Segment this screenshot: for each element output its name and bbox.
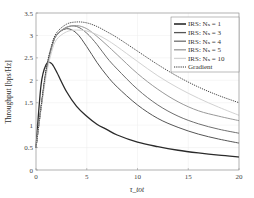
y-tick-label: 0.5 <box>24 144 33 152</box>
x-axis-label: τ_tot <box>130 185 145 194</box>
y-tick-label: 1.5 <box>24 99 33 107</box>
x-tick-label: 15 <box>185 173 193 181</box>
y-tick-label: 3 <box>30 32 34 40</box>
legend-label: IRS: Nₛ = 1 <box>188 20 221 28</box>
y-tick-label: 3.5 <box>24 10 33 18</box>
x-tick-label: 10 <box>134 173 142 181</box>
y-axis-label: Throughput [bps/Hz] <box>4 60 13 124</box>
y-tick-label: 2.5 <box>24 54 33 62</box>
legend-label: IRS: Nₛ = 10 <box>188 55 225 63</box>
x-tick-label: 0 <box>34 173 38 181</box>
legend-label: IRS: Nₛ = 4 <box>188 38 221 46</box>
y-tick-label: 2 <box>30 77 34 85</box>
y-tick-label: 1 <box>30 122 34 130</box>
throughput-chart: 05101520 00.511.522.533.5 τ_tot Throughp… <box>0 0 254 198</box>
legend-label: IRS: Nₛ = 5 <box>188 46 221 54</box>
legend-label: IRS: Nₛ = 3 <box>188 29 221 37</box>
x-tick-label: 20 <box>236 173 244 181</box>
legend: IRS: Nₛ = 1IRS: Nₛ = 3IRS: Nₛ = 4IRS: Nₛ… <box>171 17 239 72</box>
y-tick-label: 0 <box>30 167 34 175</box>
legend-label: Gradient <box>188 63 213 71</box>
x-tick-label: 5 <box>85 173 89 181</box>
